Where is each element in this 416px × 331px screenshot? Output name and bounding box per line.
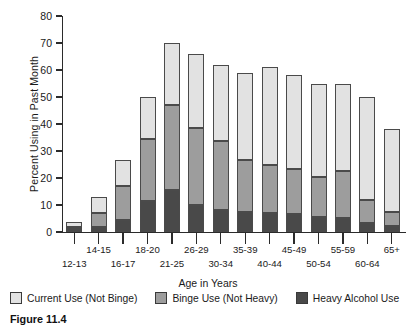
bar-segment xyxy=(213,210,229,232)
bar-group xyxy=(66,16,82,232)
x-axis-tick-label: 16-17 xyxy=(111,258,136,269)
bar-group xyxy=(140,16,156,232)
bar-segment xyxy=(140,139,156,201)
plot-area xyxy=(62,16,404,232)
bar-group xyxy=(115,16,131,232)
y-axis-tick-label: 30 xyxy=(0,145,52,157)
x-axis-tick-label: 21-25 xyxy=(160,258,185,269)
x-axis-tick xyxy=(122,233,123,244)
y-axis-tick-label: 80 xyxy=(0,10,52,22)
bar-group xyxy=(335,16,351,232)
bar-group xyxy=(384,16,400,232)
legend-item: Current Use (Not Binge) xyxy=(10,292,137,304)
x-axis-tick xyxy=(342,233,343,244)
bar-segment xyxy=(359,223,375,232)
x-axis-tick-label: 45-49 xyxy=(282,244,307,255)
bar-segment xyxy=(262,165,278,213)
x-axis-tick xyxy=(171,233,172,244)
legend-item: Binge Use (Not Heavy) xyxy=(155,292,277,304)
x-axis-line xyxy=(62,232,406,233)
x-axis-tick xyxy=(269,233,270,244)
bar-segment xyxy=(188,54,204,128)
bar-segment xyxy=(286,214,302,232)
bar-segment xyxy=(91,213,107,227)
x-axis-title: Age in Years xyxy=(0,277,416,289)
x-axis-tick xyxy=(318,233,319,244)
bar-segment xyxy=(335,171,351,218)
x-axis-tick-label: 35-39 xyxy=(233,244,258,255)
x-axis-tick xyxy=(293,233,294,244)
bar-segment xyxy=(66,227,82,230)
bar-group xyxy=(164,16,180,232)
bar-segment xyxy=(164,190,180,232)
bar-group xyxy=(262,16,278,232)
bar-segment xyxy=(188,205,204,232)
bar-group xyxy=(91,16,107,232)
y-axis-tick-label: 0 xyxy=(0,226,52,238)
bar-segment xyxy=(66,222,82,226)
bar-segment xyxy=(237,212,253,232)
x-axis-tick-label: 60-64 xyxy=(355,258,380,269)
bar-group xyxy=(237,16,253,232)
bar-segment xyxy=(213,65,229,141)
bar-segment xyxy=(164,105,180,190)
legend-label: Binge Use (Not Heavy) xyxy=(172,293,277,304)
x-axis-tick xyxy=(196,233,197,244)
legend-label: Current Use (Not Binge) xyxy=(27,293,137,304)
bar-segment xyxy=(384,226,400,232)
bar-segment xyxy=(311,84,327,177)
x-axis-tick xyxy=(220,233,221,244)
bar-group xyxy=(359,16,375,232)
x-axis-tick xyxy=(245,233,246,244)
y-axis-tick-label: 70 xyxy=(0,37,52,49)
bar-group xyxy=(286,16,302,232)
x-axis-tick-label: 65+ xyxy=(384,244,400,255)
y-axis-tick-label: 50 xyxy=(0,91,52,103)
x-axis-tick-label: 18-20 xyxy=(135,244,160,255)
bar-segment xyxy=(311,217,327,232)
bar-group xyxy=(188,16,204,232)
bar-segment xyxy=(335,218,351,232)
y-axis-tick-label: 60 xyxy=(0,64,52,76)
x-axis-tick-label: 55-59 xyxy=(331,244,356,255)
x-axis-tick xyxy=(147,233,148,244)
figure-caption: Figure 11.4 xyxy=(10,313,66,325)
bar-segment xyxy=(384,129,400,213)
x-axis-tick-label: 26-29 xyxy=(184,244,209,255)
legend-swatch-icon xyxy=(155,292,167,304)
x-axis-tick-label: 30-34 xyxy=(209,258,234,269)
x-axis-tick xyxy=(391,233,392,244)
x-axis-tick-label: 40-44 xyxy=(257,258,282,269)
bar-segment xyxy=(115,220,131,232)
bar-segment xyxy=(237,73,253,160)
bar-segment xyxy=(115,186,131,220)
figure-container: Percent Using in Past Month 010203040506… xyxy=(0,0,416,331)
bar-segment xyxy=(164,43,180,105)
bar-segment xyxy=(335,84,351,171)
bar-segment xyxy=(286,75,302,168)
bar-segment xyxy=(188,128,204,205)
x-axis-tick-label: 14-15 xyxy=(86,244,111,255)
bar-segment xyxy=(262,213,278,232)
chart-legend: Current Use (Not Binge)Binge Use (Not He… xyxy=(10,292,416,304)
legend-swatch-icon xyxy=(10,292,22,304)
bar-segment xyxy=(262,67,278,165)
x-axis-tick xyxy=(74,233,75,244)
bar-segment xyxy=(66,229,82,232)
y-axis-tick-label: 40 xyxy=(0,118,52,130)
bar-segment xyxy=(384,212,400,225)
bar-segment xyxy=(140,97,156,139)
x-axis-tick xyxy=(98,233,99,244)
x-axis-tick xyxy=(367,233,368,244)
bar-segment xyxy=(91,227,107,232)
legend-label: Heavy Alcohol Use xyxy=(313,293,399,304)
legend-swatch-icon xyxy=(296,292,308,304)
y-axis-tick-label: 20 xyxy=(0,172,52,184)
bar-segment xyxy=(237,160,253,212)
bar-segment xyxy=(91,197,107,213)
x-axis-tick-label: 12-13 xyxy=(62,258,87,269)
bar-group xyxy=(213,16,229,232)
bar-segment xyxy=(115,160,131,186)
bar-segment xyxy=(311,177,327,217)
legend-item: Heavy Alcohol Use xyxy=(296,292,399,304)
